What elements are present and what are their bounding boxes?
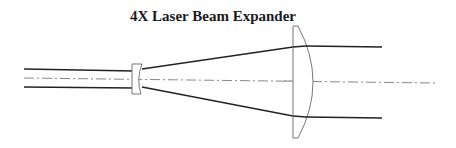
diverging-ray-top bbox=[142, 47, 293, 69]
positive-lens bbox=[293, 26, 313, 138]
input-ray-top bbox=[24, 69, 134, 71]
input-ray-bottom bbox=[24, 87, 134, 88]
optical-axis bbox=[24, 78, 436, 83]
output-ray-bottom bbox=[306, 117, 382, 118]
diverging-ray-bottom bbox=[142, 87, 293, 116]
output-ray-top bbox=[306, 46, 382, 47]
beam-expander-diagram bbox=[0, 0, 456, 148]
